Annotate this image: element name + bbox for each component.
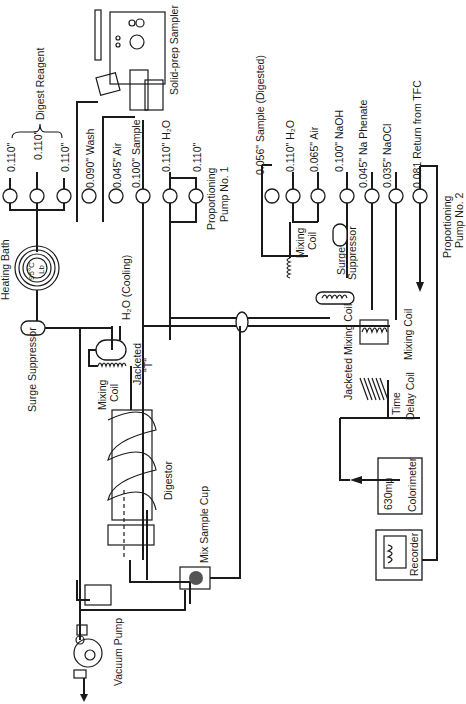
tube-size-label: 0.110" <box>59 143 71 172</box>
pump-tube-icon <box>163 189 177 203</box>
pump-tube-icon <box>413 189 427 203</box>
colorimeter: 630mμ Colorimeter <box>350 457 422 514</box>
svg-text:0.110" H₂O: 0.110" H₂O <box>284 120 296 172</box>
svg-text:Colorimeter: Colorimeter <box>406 457 418 512</box>
svg-text:0.100" Sample: 0.100" Sample <box>130 119 142 188</box>
tube-size-label: 0.110" <box>32 131 44 160</box>
svg-text:0.045" Na Phenate: 0.045" Na Phenate <box>357 99 369 188</box>
surge-suppressor-1: Surge Suppressor <box>21 321 45 412</box>
tube-size-label: 0.110" <box>5 143 17 172</box>
pump-tube-icon <box>286 189 300 203</box>
jacketed-t: H₂O (Cooling) Jacketed "T" <box>96 255 154 385</box>
svg-text:0.090" Wash: 0.090" Wash <box>84 128 96 188</box>
digest-reagent-label: Digest Reagent <box>34 48 46 120</box>
svg-text:Time: Time <box>390 392 402 415</box>
pump-tube-icon <box>265 189 279 203</box>
svg-text:Proportioning: Proportioning <box>441 195 453 258</box>
time-delay-coil: Time Delay Coil <box>360 372 416 420</box>
pump-tube-icon <box>136 189 150 203</box>
svg-text:Lb: Lb <box>37 265 46 274</box>
svg-text:Mix Sample Cup: Mix Sample Cup <box>198 486 210 563</box>
svg-text:Pump No. 2: Pump No. 2 <box>453 192 465 248</box>
svg-text:0.035" NaOCl: 0.035" NaOCl <box>381 124 393 188</box>
pump-tube-icon <box>389 189 403 203</box>
digest-reagent-manifold: 0.110" 0.110" 0.110" Digest Reagent <box>3 48 71 252</box>
svg-text:95°C: 95°C <box>27 262 36 280</box>
vacuum-pump: Vacuum Pump <box>74 580 124 702</box>
autoanalyzer-flow-diagram: 0.110" 0.110" 0.110" Digest Reagent 95°C… <box>0 0 466 704</box>
pump-tube-icon <box>365 189 379 203</box>
svg-text:Surge Suppressor: Surge Suppressor <box>26 327 38 412</box>
svg-text:Pump No. 1: Pump No. 1 <box>218 166 230 222</box>
recorder: Recorder <box>376 530 422 580</box>
surge-suppressor-2: Surge Suppressor <box>333 224 358 280</box>
mixing-coil-1: Mixing Coil <box>96 363 131 410</box>
mixing-coil-2: Mixing Coil <box>287 222 318 278</box>
svg-text:0.065" Air: 0.065" Air <box>308 126 320 172</box>
jacketed-mixing-coil: Jacketed Mixing Coil Mixing Coil <box>316 292 414 400</box>
svg-text:Coil: Coil <box>108 384 120 402</box>
svg-text:Proportioning: Proportioning <box>205 167 217 230</box>
digestor: Digestor <box>108 410 174 560</box>
svg-text:0.056" Sample (Digested): 0.056" Sample (Digested) <box>254 55 266 175</box>
solid-prep-sampler: Solid-prep Sampler <box>95 5 180 110</box>
svg-text:Vacuum Pump: Vacuum Pump <box>112 618 124 686</box>
pump-tube-icon <box>3 189 17 203</box>
svg-text:Mixing: Mixing <box>294 227 306 258</box>
heating-bath-label: Heating Bath <box>0 239 11 300</box>
svg-text:Coil: Coil <box>306 232 318 250</box>
svg-text:Solid-prep Sampler: Solid-prep Sampler <box>168 5 180 95</box>
svg-text:0.045" Air: 0.045" Air <box>111 142 123 188</box>
svg-text:H₂O (Cooling): H₂O (Cooling) <box>120 255 132 320</box>
pump-tube-icon <box>30 189 44 203</box>
svg-text:Recorder: Recorder <box>408 532 420 576</box>
svg-text:Jacketed Mixing Coil: Jacketed Mixing Coil <box>342 304 354 400</box>
svg-text:630mμ: 630mμ <box>382 478 394 510</box>
svg-text:0.100" NaOH: 0.100" NaOH <box>333 110 345 172</box>
svg-text:0.081 Return from TFC: 0.081 Return from TFC <box>411 80 423 188</box>
svg-text:Digestor: Digestor <box>162 460 174 500</box>
heating-bath: 95°C Lb Heating Bath <box>0 239 59 300</box>
svg-text:Mixing: Mixing <box>96 379 108 410</box>
pump-tube-icon <box>340 189 354 203</box>
pump-tube-icon <box>82 189 96 203</box>
svg-text:0.110" H₂O: 0.110" H₂O <box>160 120 172 172</box>
pump-tube-icon <box>189 189 203 203</box>
svg-text:"T": "T" <box>142 358 154 372</box>
svg-text:Mixing Coil: Mixing Coil <box>402 309 414 360</box>
mix-sample-cup: Mix Sample Cup <box>180 486 210 589</box>
svg-text:Delay Coil: Delay Coil <box>404 372 416 420</box>
pump-tube-icon <box>311 189 325 203</box>
pump-tube-icon <box>57 189 71 203</box>
svg-text:0.110": 0.110" <box>191 143 203 172</box>
svg-text:Suppressor: Suppressor <box>346 226 358 280</box>
pump-tube-icon <box>109 189 123 203</box>
